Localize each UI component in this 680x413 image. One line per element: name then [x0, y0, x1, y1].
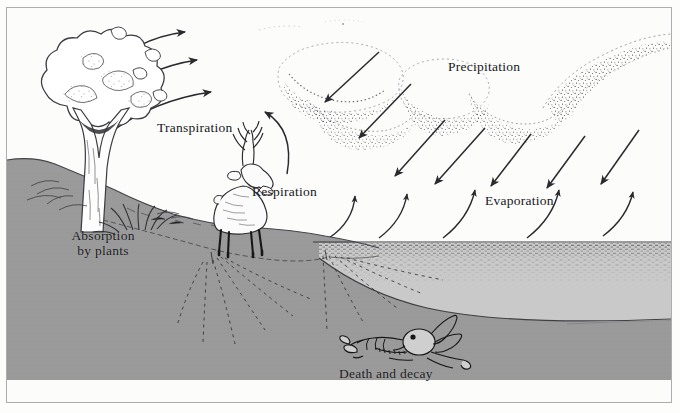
label-absorption-line2: by plants — [77, 243, 128, 258]
label-absorption-by-plants: Absorption by plants — [57, 228, 149, 258]
label-absorption-line1: Absorption — [71, 228, 134, 243]
diagram-scene: Transpiration Precipitation Respiration … — [7, 8, 671, 402]
water-cycle-figure: Transpiration Precipitation Respiration … — [0, 0, 680, 413]
label-precipitation: Precipitation — [448, 59, 520, 74]
diagram-artwork — [7, 8, 671, 402]
label-respiration: Respiration — [252, 184, 317, 199]
label-death-and-decay: Death and decay — [339, 366, 433, 381]
label-transpiration: Transpiration — [157, 120, 233, 135]
label-evaporation: Evaporation — [485, 193, 554, 208]
